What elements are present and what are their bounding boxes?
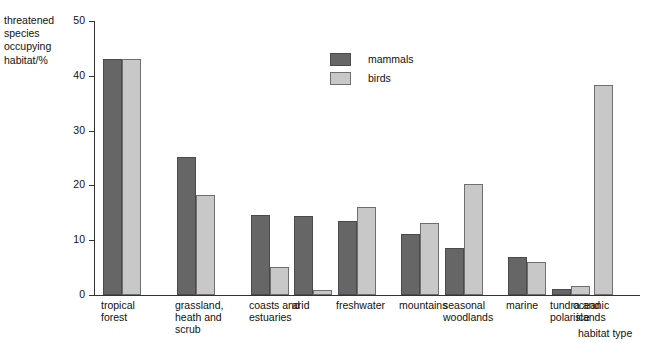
bar-chart: threatened species occupying habitat/% m…: [0, 0, 648, 343]
x-axis-category-label-line: forest: [101, 312, 135, 324]
y-axis-tick: [89, 76, 94, 77]
y-axis-tick-label: 20: [59, 178, 85, 190]
bar-mammals: [508, 257, 527, 295]
x-axis-line: [94, 295, 640, 296]
x-axis-category-label-line: estuaries: [249, 312, 300, 324]
y-axis-tick-label: 40: [59, 69, 85, 81]
x-axis-category-label: mountains: [399, 300, 447, 312]
bar-group: [338, 21, 376, 295]
plot-area: 01020304050: [95, 21, 640, 295]
x-axis-category-label: oceanicislands: [573, 300, 609, 324]
bar-birds: [196, 195, 215, 295]
bar-group: [103, 21, 141, 295]
bar-birds: [464, 184, 483, 295]
bar-birds: [270, 267, 289, 295]
x-axis-category-label: freshwater: [336, 300, 385, 312]
y-axis-tick: [89, 21, 94, 22]
y-axis-tick: [89, 185, 94, 186]
x-axis-category-label: seasonalwoodlands: [443, 300, 493, 324]
bar-birds: [594, 85, 613, 295]
y-axis-tick: [89, 131, 94, 132]
bar-birds: [420, 223, 439, 295]
y-axis-tick: [89, 240, 94, 241]
y-axis-tick-label: 0: [59, 288, 85, 300]
y-axis-tick-label: 50: [59, 14, 85, 26]
bar-group: [251, 21, 289, 295]
x-axis-category-label-line: heath and: [175, 312, 223, 324]
bar-mammals: [445, 248, 464, 295]
x-axis-category-label: arid: [292, 300, 310, 312]
bar-group: [445, 21, 483, 295]
x-axis-category-label-line: arid: [292, 300, 310, 312]
bar-birds: [122, 59, 141, 295]
y-axis-tick-label: 10: [59, 233, 85, 245]
bar-group: [177, 21, 215, 295]
y-axis-title-line-4: habitat/%: [4, 54, 74, 67]
bar-mammals: [338, 221, 357, 295]
x-axis-category-label: marine: [506, 300, 538, 312]
bar-birds: [313, 290, 332, 295]
y-axis-title-line-3: occupying: [4, 40, 74, 53]
bar-group: [575, 21, 613, 295]
y-axis-tick: [89, 295, 94, 296]
x-axis-category-label-line: islands: [573, 312, 609, 324]
bar-group: [508, 21, 546, 295]
x-axis-category-label-line: mountains: [399, 300, 447, 312]
bar-mammals: [251, 215, 270, 295]
bar-group: [294, 21, 332, 295]
bar-mammals: [552, 289, 571, 295]
bar-mammals: [294, 216, 313, 295]
bar-mammals: [177, 157, 196, 295]
y-axis-line: [94, 21, 95, 295]
x-axis-category-label-line: marine: [506, 300, 538, 312]
y-axis-title-line-2: species: [4, 27, 74, 40]
bar-group: [401, 21, 439, 295]
x-axis-category-label-line: freshwater: [336, 300, 385, 312]
y-axis-tick-label: 30: [59, 124, 85, 136]
bar-mammals: [103, 59, 122, 295]
bar-birds: [527, 262, 546, 295]
x-axis-category-label-line: woodlands: [443, 312, 493, 324]
x-axis-category-label: tropicalforest: [101, 300, 135, 324]
x-axis-category-label: grassland,heath andscrub: [175, 300, 223, 335]
x-axis-title: habitat type: [578, 327, 632, 339]
x-axis-category-label-line: scrub: [175, 324, 223, 336]
bar-mammals: [401, 234, 420, 295]
bar-birds: [357, 207, 376, 295]
